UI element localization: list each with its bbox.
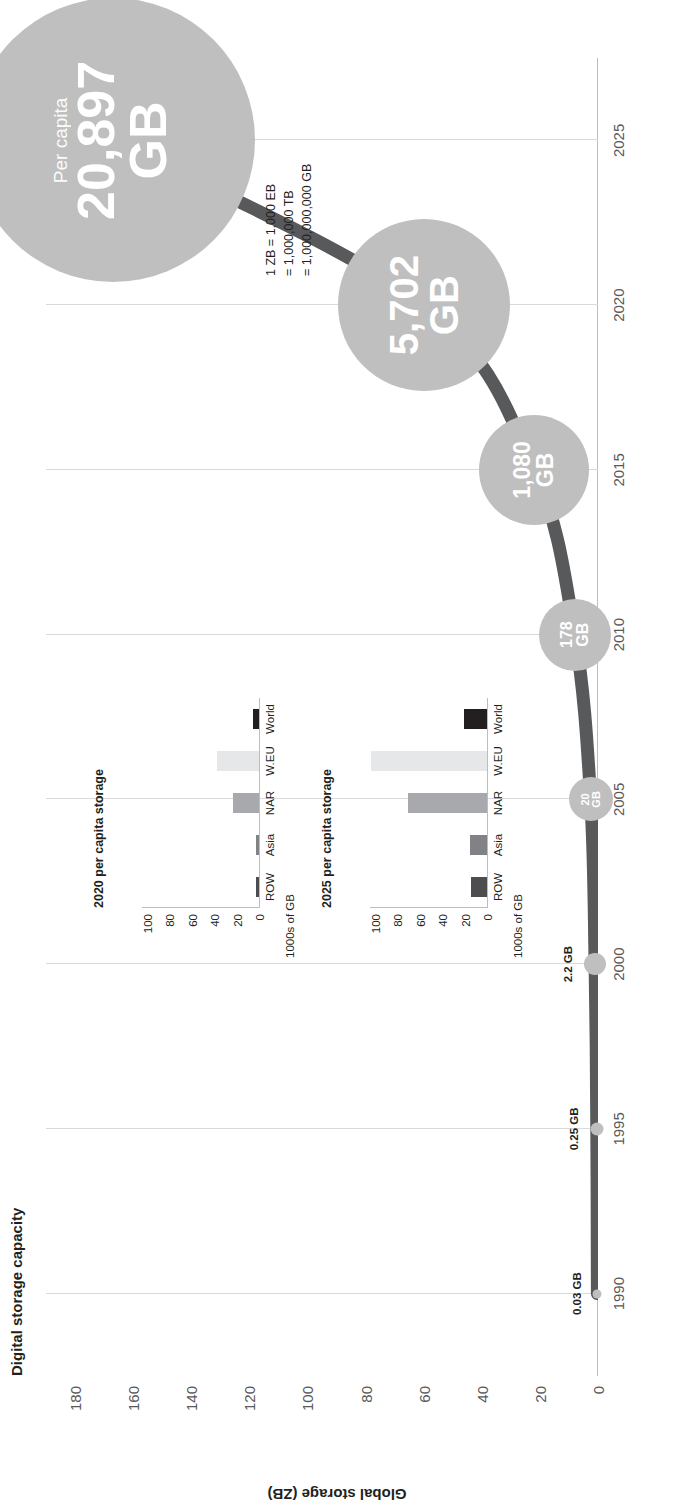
unit-conversion-note: 1 ZB = 1,000 EB = 1,000,000 TB = 1,000,0… [262,164,316,276]
bubble-unit: GB [422,275,466,335]
bubble-value: 20,897 [67,61,125,220]
inset-chart-2025: 2025 per capita storage0204060801001000s… [320,652,526,952]
data-bubble: 20GB [569,777,613,821]
data-bubble [584,953,606,975]
inset-category-label: World [492,704,504,734]
inset-bar [256,877,259,897]
inset-y-tick: 40 [437,914,449,952]
inset-category-label: ROW [492,873,504,901]
inset-title: 2020 per capita storage [92,769,106,908]
x-axis-tick: 1995 [610,1112,627,1145]
inset-bar [371,751,487,771]
inset-y-tick: 60 [415,914,427,952]
data-bubble: 1,080GB [479,415,589,525]
y-axis-tick: 100 [299,1386,316,1446]
x-axis-tick: 2010 [610,618,627,651]
inset-y-axis [142,907,260,908]
inset-y-tick: 100 [370,914,382,952]
chart-title: Digital storage capacity [8,1208,25,1376]
x-axis-tick: 1990 [610,1277,627,1310]
y-axis-tick: 0 [590,1386,607,1446]
bubble-prefix-label: Per capita [51,61,70,220]
bubble-unit: GB [532,453,558,488]
x-axis-baseline [597,58,598,1376]
inset-x-axis [259,698,260,908]
bubble-external-label: 0.25 GB [568,1107,580,1150]
inset-y-axis-label: 1000s of GB [512,894,524,958]
bubble-unit: GB [119,101,177,179]
data-bubble: 178GB [539,599,611,671]
inset-y-tick: 0 [254,914,266,952]
x-axis-tick: 2000 [610,947,627,980]
y-axis-tick: 140 [183,1386,200,1446]
inset-bar [256,835,259,855]
gridline [46,304,598,305]
inset-bar [233,793,259,813]
y-axis-tick: 40 [473,1386,490,1446]
inset-y-tick: 0 [482,914,494,952]
inset-y-tick: 60 [187,914,199,952]
infographic-page: THE OF GLOBAL A Digital storage capacity… [0,0,674,1508]
inset-y-tick: 80 [164,914,176,952]
inset-bar [471,877,487,897]
inset-y-tick: 40 [209,914,221,952]
inset-y-axis-label: 1000s of GB [284,894,296,958]
inset-y-tick: 20 [460,914,472,952]
chart-stage: Digital storage capacity Global storage … [0,0,674,1508]
data-bubble [590,1122,603,1135]
y-axis-tick: 20 [531,1386,548,1446]
inset-y-axis [370,907,488,908]
y-axis-tick: 60 [415,1386,432,1446]
inset-title: 2025 per capita storage [320,769,334,908]
inset-chart-2020: 2020 per capita storage0204060801001000s… [92,652,298,952]
inset-category-label: W.EU [264,746,276,775]
gridline [46,963,598,964]
y-axis-tick: 80 [357,1386,374,1446]
inset-bar [253,709,259,729]
x-axis-tick: 2025 [610,124,627,157]
y-axis-label: Global storage (ZB) [267,1486,406,1503]
bubble-external-label: 2.2 GB [562,946,574,982]
inset-bar [464,709,487,729]
bubble-value: 178 [558,621,575,648]
inset-category-label: W.EU [492,746,504,775]
inset-category-label: ROW [264,873,276,901]
x-axis-tick: 2005 [610,783,627,816]
inset-bar [470,835,487,855]
bubble-external-label: 0.03 GB [571,1272,583,1315]
bubble-unit: GB [574,623,591,647]
y-axis-tick: 180 [67,1386,84,1446]
inset-category-label: Asia [264,834,276,856]
y-axis-tick: 160 [125,1386,142,1446]
inset-category-label: Asia [492,834,504,856]
data-bubble [593,1289,602,1298]
x-axis-tick: 2015 [610,453,627,486]
bubble-unit: GB [590,791,602,808]
gridline [46,634,598,635]
gridline [46,1293,598,1294]
bubble-value: 5,702 [382,255,426,355]
inset-category-label: NAR [264,791,276,815]
inset-y-tick: 100 [142,914,154,952]
inset-bar [217,751,259,771]
inset-x-axis [487,698,488,908]
y-axis-tick: 120 [241,1386,258,1446]
inset-y-tick: 20 [232,914,244,952]
gridline [46,1128,598,1129]
inset-category-label: World [264,704,276,734]
data-bubble: 5,702GB [338,219,510,391]
x-axis-tick: 2020 [610,288,627,321]
inset-y-tick: 80 [392,914,404,952]
inset-category-label: NAR [492,791,504,815]
inset-bar [408,793,487,813]
